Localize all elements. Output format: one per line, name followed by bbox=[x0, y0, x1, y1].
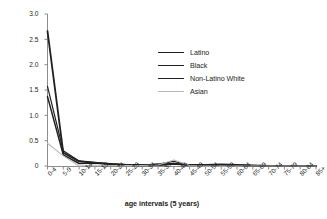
y-tick-label: 2.5 bbox=[21, 36, 39, 43]
y-tick-label: 3.0 bbox=[21, 10, 39, 17]
legend-line-swatch bbox=[158, 78, 184, 79]
legend-line-swatch bbox=[158, 52, 184, 53]
legend-item-non-latino-white[interactable]: Non-Latino White bbox=[158, 72, 298, 85]
y-tick-label: 1.5 bbox=[21, 86, 39, 93]
legend-item-black[interactable]: Black bbox=[158, 59, 298, 72]
y-tick-label: 2.0 bbox=[21, 61, 39, 68]
legend-label: Non-Latino White bbox=[190, 74, 245, 83]
legend-label: Latino bbox=[190, 48, 209, 57]
y-tick-label: 0.5 bbox=[21, 137, 39, 144]
y-tick-label: 0 bbox=[21, 162, 39, 169]
y-tick-label: 1.0 bbox=[21, 112, 39, 119]
series-line-latino bbox=[48, 97, 317, 166]
legend-item-asian[interactable]: Asian bbox=[158, 85, 298, 98]
series-line-black bbox=[48, 86, 317, 166]
legend-label: Asian bbox=[190, 87, 208, 96]
legend-line-swatch bbox=[158, 65, 184, 66]
chart-legend: LatinoBlackNon-Latino WhiteAsian bbox=[158, 46, 298, 98]
legend-label: Black bbox=[190, 61, 207, 70]
legend-line-swatch bbox=[158, 91, 184, 92]
legend-item-latino[interactable]: Latino bbox=[158, 46, 298, 59]
